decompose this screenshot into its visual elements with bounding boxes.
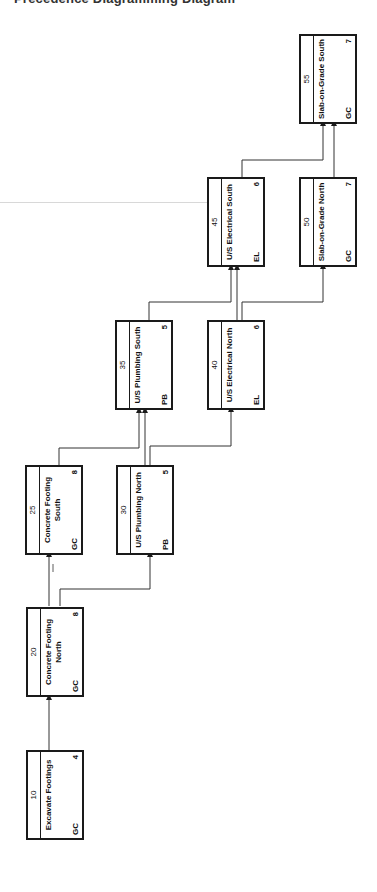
activity-id: 25 bbox=[27, 467, 40, 553]
activity-id: 20 bbox=[28, 609, 41, 695]
activity-box-35[interactable]: 35 U/S Plumbing South PB 5 bbox=[115, 320, 173, 410]
activity-id: 30 bbox=[118, 467, 131, 553]
activity-id: 40 bbox=[209, 322, 222, 408]
activity-resource: GC bbox=[70, 538, 79, 550]
activity-box-55[interactable]: 55 Slab-on-Grade South GC 7 bbox=[299, 34, 357, 124]
activity-name: U/S Plumbing North bbox=[134, 469, 144, 551]
activity-box-20[interactable]: 20 Concrete Footing North GC 8 bbox=[26, 607, 84, 697]
activity-id: 55 bbox=[301, 36, 314, 122]
activity-name: U/S Electrical North bbox=[225, 324, 235, 406]
link-35-45 bbox=[149, 269, 231, 320]
activity-id: 10 bbox=[28, 752, 41, 838]
activity-resource: GC bbox=[71, 823, 80, 835]
activity-resource: PB bbox=[160, 394, 169, 405]
activity-id: 50 bbox=[301, 179, 314, 265]
activity-name: Excavate Footings bbox=[44, 754, 54, 836]
activity-resource: EL bbox=[252, 252, 261, 262]
activity-name: Concrete Footing North bbox=[44, 611, 64, 693]
link-40-50 bbox=[242, 268, 323, 320]
activity-box-40[interactable]: 40 U/S Electrical North EL 6 bbox=[207, 320, 265, 410]
activity-id: 35 bbox=[117, 322, 130, 408]
activity-duration: 6 bbox=[252, 325, 261, 329]
activity-duration: 7 bbox=[344, 182, 353, 186]
activity-resource: GC bbox=[344, 107, 353, 119]
activity-duration: 6 bbox=[252, 182, 261, 186]
activity-duration: 7 bbox=[344, 39, 353, 43]
activity-name: Slab-on-Grade North bbox=[317, 181, 327, 263]
activity-resource: GC bbox=[71, 680, 80, 692]
activity-duration: 5 bbox=[160, 325, 169, 329]
activity-name: Concrete Footing South bbox=[43, 469, 63, 551]
link-45-55 bbox=[242, 125, 323, 177]
activity-box-25[interactable]: 25 Concrete Footing South GC 8 bbox=[25, 465, 83, 555]
activity-box-45[interactable]: 45 U/S Electrical South EL 6 bbox=[207, 177, 265, 267]
activity-resource: GC bbox=[344, 250, 353, 262]
activity-name: U/S Electrical South bbox=[225, 181, 235, 263]
link-30-40 bbox=[150, 411, 231, 465]
activity-box-30[interactable]: 30 U/S Plumbing North PB 5 bbox=[116, 465, 174, 555]
activity-duration: 8 bbox=[71, 612, 80, 616]
activity-duration: 5 bbox=[161, 470, 170, 474]
activity-name: U/S Plumbing South bbox=[133, 324, 143, 406]
link-25-35 bbox=[59, 412, 139, 465]
link-20-30 bbox=[60, 556, 150, 606]
activity-duration: 4 bbox=[71, 755, 80, 759]
activity-duration: 8 bbox=[70, 470, 79, 474]
activity-id: 45 bbox=[209, 179, 222, 265]
activity-box-10[interactable]: 10 Excavate Footings GC 4 bbox=[26, 750, 84, 840]
activity-resource: EL bbox=[252, 395, 261, 405]
activity-name: Slab-on-Grade South bbox=[317, 38, 327, 120]
activity-resource: PB bbox=[161, 539, 170, 550]
activity-box-50[interactable]: 50 Slab-on-Grade North GC 7 bbox=[299, 177, 357, 267]
